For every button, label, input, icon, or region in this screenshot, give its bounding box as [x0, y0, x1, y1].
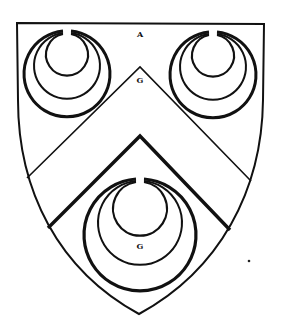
crescent-dexter-chief — [24, 31, 110, 117]
label-base-crescent-tincture: G — [137, 241, 144, 251]
label-field-tincture: A — [136, 29, 144, 39]
crescent-sinister-chief — [170, 32, 256, 118]
stray-ink-dot — [248, 260, 251, 263]
shield-figure: A G G — [0, 0, 282, 336]
label-chevron-tincture: G — [137, 75, 144, 85]
chevron-lower-edge — [48, 136, 230, 230]
crescent-base — [84, 179, 196, 291]
